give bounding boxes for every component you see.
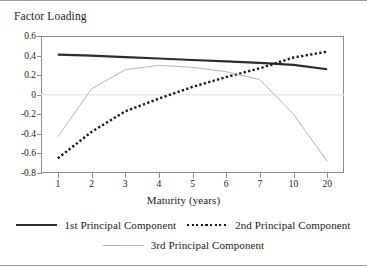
x-axis-tick-label: 1 xyxy=(55,179,60,189)
x-axis-tick-mark xyxy=(58,173,59,178)
y-axis-tick-labels: 0.60.40.20-0.2-0.4-0.6-0.8 xyxy=(0,36,36,173)
plot-area xyxy=(41,36,344,173)
legend-label: 1st Principal Component xyxy=(64,219,176,231)
x-axis-tick-mark xyxy=(226,173,227,178)
x-axis-tick-mark xyxy=(327,173,328,178)
x-axis-tick-label: 3 xyxy=(123,179,128,189)
x-axis-tick-mark xyxy=(294,173,295,178)
legend-row: 3rd Principal Component xyxy=(0,235,367,255)
x-axis-tick-label: 5 xyxy=(190,179,195,189)
legend-label: 3rd Principal Component xyxy=(151,239,265,251)
y-axis-tick-label: -0.8 xyxy=(21,168,36,178)
legend-swatch-icon xyxy=(16,220,57,230)
legend-swatch-icon xyxy=(187,220,228,230)
x-axis-tick-mark xyxy=(125,173,126,178)
legend-label: 2nd Principal Component xyxy=(235,219,350,231)
x-axis-tick-label: 6 xyxy=(224,179,229,189)
x-axis-label: Maturity (years) xyxy=(0,194,367,206)
legend-swatch-icon xyxy=(103,240,144,250)
x-axis-tick-label: 4 xyxy=(156,179,161,189)
plot-series-svg xyxy=(41,36,344,173)
x-axis-tick-mark xyxy=(193,173,194,178)
y-axis-tick-label: -0.2 xyxy=(21,109,36,119)
legend-item[interactable]: 2nd Principal Component xyxy=(187,219,350,231)
chart-legend: 1st Principal Component2nd Principal Com… xyxy=(0,215,367,255)
chart-title: Factor Loading xyxy=(14,10,87,22)
legend-item[interactable]: 3rd Principal Component xyxy=(103,239,265,251)
legend-item[interactable]: 1st Principal Component xyxy=(16,219,176,231)
x-axis-tick-label: 20 xyxy=(322,179,332,189)
series-line xyxy=(58,65,327,161)
x-axis-tick-mark xyxy=(159,173,160,178)
x-axis-tick-label: 10 xyxy=(289,179,299,189)
x-axis-tick-labels: 12345671020 xyxy=(41,179,344,193)
x-axis-tick-label: 2 xyxy=(89,179,94,189)
x-axis-tick-mark xyxy=(260,173,261,178)
legend-row: 1st Principal Component2nd Principal Com… xyxy=(0,215,367,235)
x-axis-tick-mark xyxy=(92,173,93,178)
x-axis-tick-label: 7 xyxy=(257,179,262,189)
y-axis-tick-label: -0.4 xyxy=(21,129,36,139)
chart-figure: Factor Loading 0.60.40.20-0.2-0.4-0.6-0.… xyxy=(0,0,367,266)
y-axis-tick-label: -0.6 xyxy=(21,148,36,158)
